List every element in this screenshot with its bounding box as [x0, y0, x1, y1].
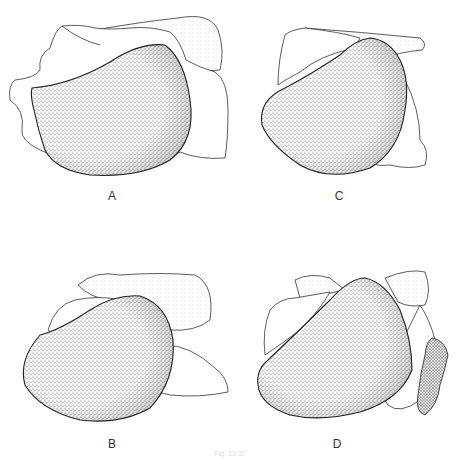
panel-a	[10, 17, 228, 176]
panel-b	[23, 274, 228, 422]
panel-label-d: D	[333, 437, 342, 451]
panel-label-c: C	[335, 189, 344, 203]
panel-label-a: A	[108, 189, 116, 203]
panel-label-b: B	[108, 437, 116, 451]
figure-illustration	[0, 0, 460, 460]
panel-d	[258, 271, 448, 418]
figure-caption: Fig. 33-37	[214, 450, 246, 457]
panel-c	[261, 28, 426, 174]
